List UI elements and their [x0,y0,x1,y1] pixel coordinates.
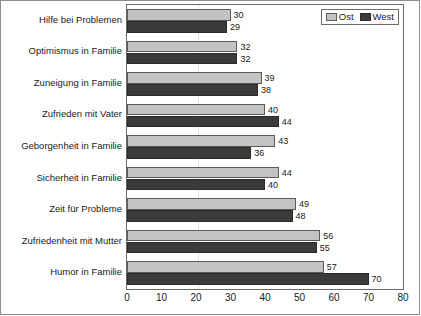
bar-value-label: 56 [323,231,333,241]
bar-value-label: 32 [240,42,250,52]
bar-group: 4044 [127,100,403,132]
category-label: Geborgenheit in Familie [0,140,122,151]
bar-west [127,179,265,191]
bar-value-label: 40 [268,180,278,190]
bar-value-label: 38 [261,85,271,95]
category-label: Hilfe bei Problemen [0,14,122,25]
bar-ost [127,261,324,273]
bar-value-label: 29 [230,22,240,32]
bar-group: 3232 [127,37,403,69]
x-tick-30: 30 [225,292,236,304]
bar-value-label: 30 [234,10,244,20]
category-label: Optimismus in Familie [0,45,122,56]
x-tick-40: 40 [259,292,270,304]
bar-ost [127,135,275,147]
category-axis-labels: Hilfe bei ProblemenOptimismus in Familie… [0,4,122,290]
bar-value-label: 43 [278,136,288,146]
x-axis-tick-labels: 01020304050607080 [126,292,404,312]
bar-value-label: 49 [299,199,309,209]
legend-swatch-ost-icon [326,13,337,21]
bar-ost [127,9,231,21]
bar-ost [127,72,262,84]
bar-group: 4948 [127,194,403,226]
category-label: Zufrieden mit Vater [0,108,122,119]
category-label: Humor in Familie [0,266,122,277]
x-tick-20: 20 [190,292,201,304]
bar-value-label: 48 [296,211,306,221]
bar-value-label: 57 [327,262,337,272]
bar-value-label: 39 [265,73,275,83]
bar-west [127,273,369,285]
x-tick-70: 70 [363,292,374,304]
plot-area: 302932323938404443364440494856555770 Ost… [126,4,404,290]
bar-group: 5770 [127,257,403,289]
bar-west [127,210,293,222]
bar-value-label: 32 [240,54,250,64]
category-label: Zeit für Probleme [0,203,122,214]
x-tick-60: 60 [328,292,339,304]
category-label: Zufriedenheit mit Mutter [0,235,122,246]
bar-value-label: 36 [254,148,264,158]
plot-inner: 302932323938404443364440494856555770 [127,5,403,289]
bar-ost [127,167,279,179]
bar-west [127,53,237,65]
bar-group: 3938 [127,68,403,100]
x-tick-0: 0 [124,292,130,304]
bar-ost [127,198,296,210]
bar-west [127,116,279,128]
legend: OstWest [321,9,399,25]
category-label: Sicherheit in Familie [0,172,122,183]
legend-label: Ost [339,12,354,22]
legend-entry-ost: Ost [326,12,354,22]
bar-value-label: 55 [320,243,330,253]
bar-group: 4336 [127,131,403,163]
bar-ost [127,41,237,53]
bar-west [127,242,317,254]
bar-west [127,147,251,159]
bar-ost [127,230,320,242]
x-tick-80: 80 [397,292,408,304]
x-tick-10: 10 [156,292,167,304]
legend-entry-west: West [360,12,394,22]
bar-ost [127,104,265,116]
bar-west [127,21,227,33]
bar-value-label: 44 [282,117,292,127]
bar-group: 4440 [127,163,403,195]
bar-chart-figure: Hilfe bei ProblemenOptimismus in Familie… [0,0,421,316]
category-label: Zuneigung in Familie [0,77,122,88]
legend-swatch-west-icon [360,13,371,21]
bar-west [127,84,258,96]
x-tick-50: 50 [294,292,305,304]
legend-label: West [373,12,394,22]
bar-value-label: 70 [372,274,382,284]
bar-value-label: 40 [268,105,278,115]
bar-group: 5655 [127,226,403,258]
bar-value-label: 44 [282,168,292,178]
